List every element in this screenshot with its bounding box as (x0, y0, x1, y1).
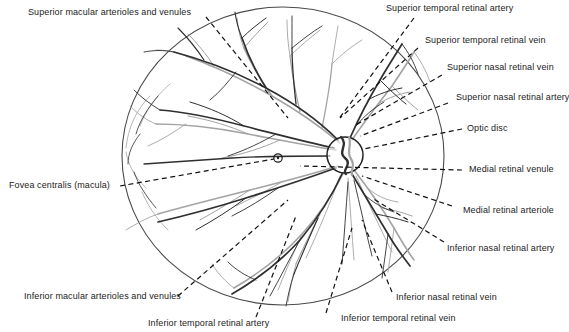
label-medial-arteriole: Medial retinal arteriole (463, 205, 554, 215)
label-inferior-macular: Inferior macular arterioles and venules (24, 291, 181, 301)
label-inferior-nasal-vein: Inferior nasal retinal vein (396, 292, 497, 302)
label-optic-disc: Optic disc (467, 123, 508, 133)
label-fovea-centralis: Fovea centralis (macula) (9, 180, 110, 190)
label-superior-nasal-vein: Superior nasal retinal vein (447, 62, 554, 72)
label-superior-macular: Superior macular arterioles and venules (28, 7, 191, 17)
label-inferior-temporal-vein: Inferior temporal retinal vein (341, 313, 456, 323)
label-superior-nasal-artery: Superior nasal retinal artery (456, 92, 569, 102)
label-inferior-nasal-artery: Inferior nasal retinal artery (447, 243, 554, 253)
label-inferior-temporal-artery: Inferior temporal retinal artery (148, 318, 269, 328)
label-medial-venule: Medial retinal venule (469, 164, 554, 174)
label-superior-temporal-artery: Superior temporal retinal artery (386, 3, 513, 13)
label-superior-temporal-vein: Superior temporal retinal vein (425, 35, 546, 45)
